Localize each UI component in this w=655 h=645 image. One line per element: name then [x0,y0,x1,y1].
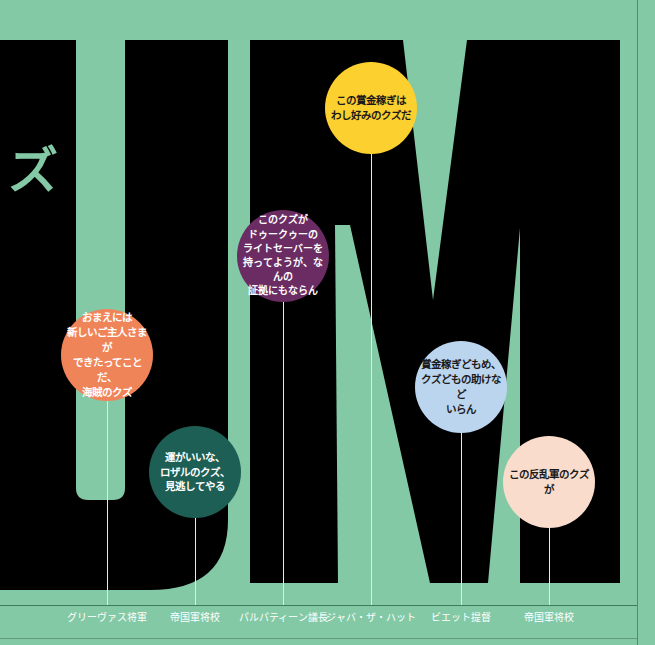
side-katakana: ズ [8,146,58,196]
baseline [0,605,637,606]
quote-text: おまえには 新しいご主人さまが できたってことだ、 海賊のクズ [67,310,147,399]
quote-balloon: 運がいいな、 ロザルのクズ、 見逃してやる [149,426,241,518]
callout-string [371,154,372,605]
speaker-label: ビエット提督 [431,609,491,624]
speaker-label: 帝国軍将校 [170,609,220,624]
quote-balloon: このクズが ドゥークゥーの ライトセーバーを 持ってようが、なんの 証拠にもなら… [237,210,329,302]
quote-balloon: 賞金稼ぎどもめ、 クズどもの助けなど いらん [415,341,507,433]
quote-text: 賞金稼ぎどもめ、 クズどもの助けなど いらん [421,357,501,417]
callout-string [461,433,462,605]
infographic: ズ おまえには 新しいご主人さまが できたってことだ、 海賊のクズ グリーヴァス… [0,0,655,645]
quote-text: このクズが ドゥークゥーの ライトセーバーを 持ってようが、なんの 証拠にもなら… [243,213,323,298]
quote-text: 運がいいな、 ロザルのクズ、 見逃してやる [160,450,230,495]
speaker-label: 帝国軍将校 [524,609,574,624]
letter-u-counter [76,40,125,500]
callout-string [549,528,550,605]
speaker-label: パルパティーン議長 [239,609,328,624]
quote-balloon: この反乱軍のクズが [503,436,595,528]
frame-right-line [637,0,638,645]
quote-text: この反乱軍のクズが [509,467,589,497]
speaker-label: グリーヴァス将軍 [67,609,147,624]
callout-string [195,518,196,605]
callout-string [283,302,284,605]
callout-string [107,401,108,605]
quote-balloon: おまえには 新しいご主人さまが できたってことだ、 海賊のクズ [61,309,153,401]
speaker-label: ジャバ・ザ・ハット [326,609,416,624]
quote-balloon: この賞金稼ぎは わし好みのクズだ [325,62,417,154]
frame-bottom-line [0,638,637,639]
quote-text: この賞金稼ぎは わし好みのクズだ [331,93,411,123]
